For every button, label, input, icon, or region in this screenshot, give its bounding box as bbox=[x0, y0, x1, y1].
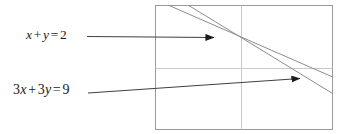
eq2-value: 9 bbox=[62, 82, 69, 97]
eq2-operator-plus: + bbox=[27, 82, 38, 97]
equation-label-3x-plus-3y-equals-9: 3x+3y=9 bbox=[13, 83, 70, 97]
eq2-var-x: x bbox=[20, 82, 26, 97]
eq2-coefficient-2: 3 bbox=[38, 82, 45, 97]
eq1-value: 2 bbox=[60, 27, 67, 42]
equation-label-x-plus-y-equals-2: x+y=2 bbox=[26, 28, 67, 42]
eq2-equals-sign: = bbox=[51, 82, 62, 97]
figure-canvas bbox=[0, 0, 345, 134]
eq1-equals-sign: = bbox=[49, 27, 60, 42]
eq1-operator-plus: + bbox=[32, 27, 43, 42]
plot-box bbox=[156, 6, 333, 130]
math-figure: x+y=2 3x+3y=9 bbox=[0, 0, 345, 134]
